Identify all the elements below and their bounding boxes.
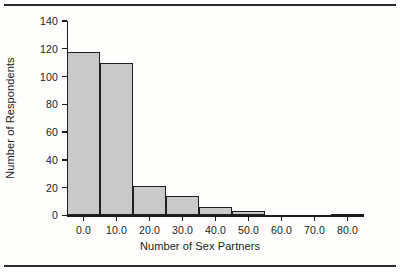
x-axis-title: Number of Sex Partners: [0, 240, 400, 252]
x-axis-tick-label: 40.0: [205, 224, 226, 236]
y-axis-tick-label: 60: [46, 126, 58, 138]
y-axis-title: Number of Respondents: [4, 57, 16, 178]
bar: [133, 186, 166, 215]
y-axis-tick: [62, 76, 67, 77]
y-axis-tick: [62, 48, 67, 49]
x-axis-tick: [347, 216, 348, 221]
x-axis-tick: [248, 216, 249, 221]
x-axis-tick-label: 10.0: [106, 224, 127, 236]
x-axis-tick-label: 70.0: [304, 224, 325, 236]
bar: [166, 196, 199, 215]
histogram-plot: 020406080100120140 0.010.020.030.040.050…: [0, 0, 400, 272]
y-axis-tick: [62, 104, 67, 105]
x-axis-tick-label: 20.0: [139, 224, 160, 236]
figure-panel: 020406080100120140 0.010.020.030.040.050…: [0, 0, 400, 272]
x-axis-tick: [182, 216, 183, 221]
bar: [67, 52, 100, 216]
x-axis-tick-label: 60.0: [271, 224, 292, 236]
y-axis-tick-label: 40: [46, 154, 58, 166]
x-axis-tick: [215, 216, 216, 221]
x-axis-tick: [314, 216, 315, 221]
y-axis-tick: [62, 20, 67, 21]
x-axis-tick-label: 50.0: [238, 224, 259, 236]
y-axis-tick-label: 120: [40, 43, 58, 55]
y-axis-tick-label: 0: [52, 209, 58, 221]
y-axis-tick: [62, 187, 67, 188]
bar: [100, 63, 133, 216]
x-axis-tick: [281, 216, 282, 221]
bar: [199, 207, 232, 215]
x-axis-tick: [116, 216, 117, 221]
x-axis-tick-label: 30.0: [172, 224, 193, 236]
x-axis-tick-label: 80.0: [337, 224, 358, 236]
y-axis-tick-label: 140: [40, 15, 58, 27]
y-axis-tick-label: 80: [46, 98, 58, 110]
x-axis-tick-label: 0.0: [76, 224, 91, 236]
x-axis-tick: [83, 216, 84, 221]
y-axis-tick: [62, 215, 67, 216]
y-axis-line: [67, 21, 68, 216]
y-axis-tick: [62, 159, 67, 160]
x-axis-tick: [149, 216, 150, 221]
y-axis-tick-label: 100: [40, 71, 58, 83]
y-axis-tick: [62, 131, 67, 132]
y-axis-tick-label: 20: [46, 182, 58, 194]
